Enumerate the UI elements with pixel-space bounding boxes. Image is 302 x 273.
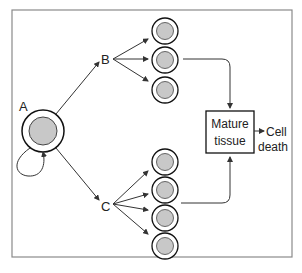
b-daughter-cell	[152, 18, 178, 44]
label-a: A	[19, 99, 28, 114]
cell-death-label-line1: Cell	[266, 125, 287, 139]
mature-tissue-label-line2: tissue	[214, 134, 246, 148]
arrow-b-to-mature-tissue	[183, 59, 230, 108]
b-fan-arrows	[113, 39, 148, 81]
label-c: C	[101, 199, 110, 214]
mature-tissue-label-line1: Mature	[211, 117, 249, 131]
arrow-a-to-c	[56, 148, 99, 200]
arrow-c-to-mature-tissue	[181, 157, 230, 203]
c-daughter-cell	[152, 233, 178, 259]
b-daughter-cell	[152, 47, 178, 73]
c-daughter-cell	[152, 177, 178, 203]
arrow-a-to-b	[56, 62, 99, 114]
label-b: B	[101, 52, 110, 67]
b-daughter-cell	[152, 77, 178, 103]
cell-lineage-diagram: A B C	[0, 0, 302, 273]
c-daughter-cell	[152, 205, 178, 231]
c-daughter-cell	[152, 149, 178, 175]
stem-cell-a	[22, 110, 64, 152]
c-fan-arrows	[113, 171, 148, 234]
cell-death-label-line2: death	[258, 140, 288, 154]
